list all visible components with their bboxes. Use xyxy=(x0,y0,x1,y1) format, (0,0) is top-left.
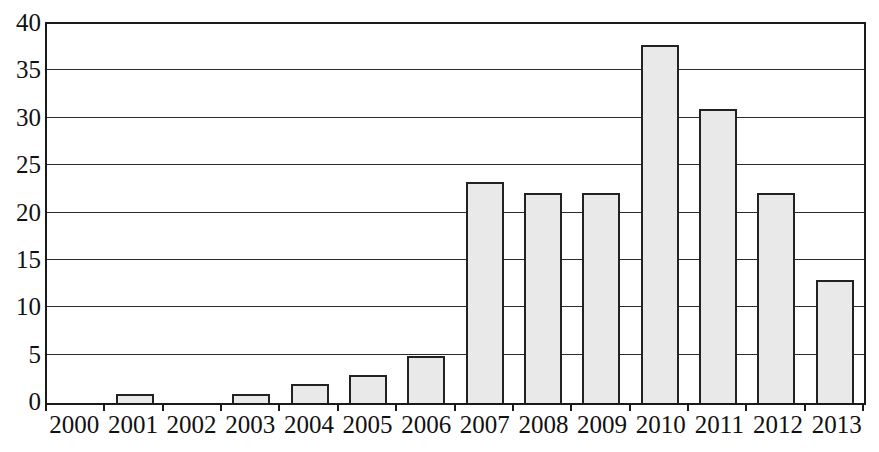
x-axis-tick-label: 2004 xyxy=(280,409,339,449)
bar-slot xyxy=(456,24,514,403)
bar-slot xyxy=(280,24,338,403)
y-axis: 0510152025303540 xyxy=(0,0,41,452)
y-axis-tick-label: 30 xyxy=(5,104,41,129)
y-axis-tick-label: 40 xyxy=(5,10,41,35)
x-axis-tick-label: 2008 xyxy=(514,409,573,449)
bar-slot xyxy=(514,24,572,403)
bar xyxy=(466,182,504,403)
x-axis: 2000200120022003200420052006200720082009… xyxy=(45,409,866,449)
bar xyxy=(349,375,387,403)
plot-area xyxy=(45,22,866,405)
x-axis-tick-label: 2012 xyxy=(749,409,808,449)
x-axis-tick-label: 2011 xyxy=(690,409,749,449)
y-axis-tick-label: 10 xyxy=(5,294,41,319)
bar xyxy=(816,280,854,403)
x-axis-tick-label: 2003 xyxy=(221,409,280,449)
bar xyxy=(116,394,154,403)
bars-container xyxy=(47,24,864,403)
bar-slot xyxy=(572,24,630,403)
bar-slot xyxy=(631,24,689,403)
y-axis-tick-label: 20 xyxy=(5,199,41,224)
x-axis-tick-label: 2006 xyxy=(397,409,456,449)
x-axis-tick-label: 2009 xyxy=(573,409,632,449)
y-axis-tick-label: 5 xyxy=(5,341,41,366)
y-axis-tick-label: 0 xyxy=(5,389,41,414)
bar-slot xyxy=(747,24,805,403)
bar xyxy=(291,384,329,403)
bar xyxy=(407,356,445,403)
x-axis-tick-label: 2001 xyxy=(104,409,163,449)
bar-slot xyxy=(164,24,222,403)
bar xyxy=(699,109,737,403)
x-axis-tick-label: 2002 xyxy=(162,409,221,449)
bar xyxy=(641,45,679,403)
bar-chart: 0510152025303540 20002001200220032004200… xyxy=(0,0,879,452)
x-axis-tick-label: 2010 xyxy=(631,409,690,449)
bar xyxy=(582,193,620,403)
bar-slot xyxy=(339,24,397,403)
bar xyxy=(757,193,795,403)
bar xyxy=(232,394,270,403)
bar-slot xyxy=(397,24,455,403)
y-axis-tick-label: 15 xyxy=(5,246,41,271)
x-axis-tick-label: 2007 xyxy=(455,409,514,449)
bar-slot xyxy=(105,24,163,403)
x-axis-tick-label: 2000 xyxy=(45,409,104,449)
bar-slot xyxy=(689,24,747,403)
y-axis-tick-label: 25 xyxy=(5,152,41,177)
bar-slot xyxy=(222,24,280,403)
x-axis-tick-label: 2013 xyxy=(807,409,866,449)
bar xyxy=(524,193,562,403)
bar-slot xyxy=(47,24,105,403)
y-axis-tick-label: 35 xyxy=(5,57,41,82)
x-axis-tick-label: 2005 xyxy=(338,409,397,449)
bar-slot xyxy=(806,24,864,403)
